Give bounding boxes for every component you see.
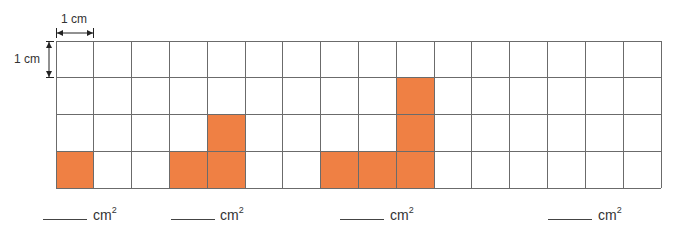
filled-cell — [56, 151, 94, 188]
unit-label: cm2 — [93, 206, 117, 223]
filled-cell — [396, 78, 434, 115]
horizontal-double-arrow-icon — [56, 28, 96, 38]
filled-cell — [396, 151, 434, 188]
grid-line-horizontal — [56, 188, 661, 189]
unit-label: cm2 — [598, 206, 622, 223]
unit-label: cm2 — [390, 206, 414, 223]
filled-cell — [207, 115, 245, 152]
unit-label: cm2 — [220, 206, 244, 223]
horizontal-scale-label: 1 cm — [61, 12, 87, 26]
answer-blank[interactable] — [171, 219, 215, 220]
filled-cell — [169, 151, 207, 188]
answer-blank[interactable] — [43, 219, 87, 220]
vertical-scale-label: 1 cm — [14, 52, 40, 66]
grid-line-horizontal — [56, 41, 661, 42]
square-grid — [56, 41, 661, 188]
filled-cell — [207, 151, 245, 188]
filled-cell — [359, 151, 397, 188]
answer-blank[interactable] — [548, 219, 592, 220]
filled-cell — [321, 151, 359, 188]
grid-line-horizontal — [56, 114, 661, 115]
filled-cell — [396, 115, 434, 152]
grid-line-horizontal — [56, 77, 661, 78]
grid-line-horizontal — [56, 151, 661, 152]
vertical-double-arrow-icon — [44, 41, 54, 79]
answer-blank[interactable] — [340, 219, 384, 220]
